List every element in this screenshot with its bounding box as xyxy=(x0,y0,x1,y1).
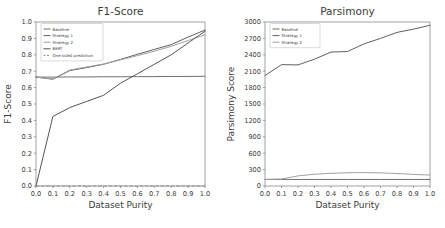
x-tick-label: 0.0 xyxy=(31,190,42,198)
x-tick-label: 0.6 xyxy=(132,190,143,198)
y-tick-label: 2700 xyxy=(244,35,261,43)
x-tick-label: 0.0 xyxy=(259,190,270,198)
y-tick-label: 0.2 xyxy=(22,150,33,158)
y-tick-label: 0.3 xyxy=(22,133,33,141)
panel-f1-score: F1-Score0.00.10.20.30.40.50.60.70.80.91.… xyxy=(0,0,223,228)
y-axis-label: F1-Score xyxy=(3,84,13,124)
y-tick-label: 0.1 xyxy=(22,166,33,174)
legend-label-0: Baseline xyxy=(53,27,70,32)
x-tick-label: 0.9 xyxy=(408,190,419,198)
y-tick-label: 0.7 xyxy=(22,68,33,76)
x-tick-label: 0.2 xyxy=(65,190,76,198)
y-tick-label: 0 xyxy=(256,182,260,190)
legend-label-1: Strategy 1 xyxy=(281,33,302,38)
x-tick-label: 0.1 xyxy=(48,190,59,198)
y-tick-label: 0.6 xyxy=(22,84,33,92)
figure-container: F1-Score0.00.10.20.30.40.50.60.70.80.91.… xyxy=(0,0,445,228)
y-tick-label: 1200 xyxy=(244,117,261,125)
legend-label-3: BERT xyxy=(53,46,64,51)
y-tick-label: 0.5 xyxy=(22,100,33,108)
x-tick-label: 0.5 xyxy=(115,190,126,198)
y-tick-label: 900 xyxy=(248,133,261,141)
panel-parsimony: Parsimony0.00.10.20.30.40.50.60.70.80.91… xyxy=(223,0,445,228)
legend-label-2: Strategy 2 xyxy=(281,40,302,45)
f1-score-chart: F1-Score0.00.10.20.30.40.50.60.70.80.91.… xyxy=(0,0,223,228)
chart-title: Parsimony xyxy=(320,5,375,17)
y-tick-label: 0.4 xyxy=(22,117,33,125)
x-tick-label: 0.5 xyxy=(342,190,353,198)
y-axis-label: Parsimony Score xyxy=(226,66,236,141)
legend-label-2: Strategy 2 xyxy=(53,40,74,45)
y-tick-label: 0.0 xyxy=(22,182,33,190)
y-tick-label: 2100 xyxy=(244,68,261,76)
series-line-2 xyxy=(265,173,430,180)
x-tick-label: 0.2 xyxy=(292,190,303,198)
y-tick-label: 0.9 xyxy=(22,35,33,43)
y-tick-label: 1500 xyxy=(244,100,261,108)
y-tick-label: 3000 xyxy=(244,18,261,26)
x-tick-label: 0.8 xyxy=(391,190,402,198)
x-tick-label: 1.0 xyxy=(424,190,435,198)
x-tick-label: 0.4 xyxy=(325,190,336,198)
y-tick-label: 2400 xyxy=(244,51,261,59)
chart-title: F1-Score xyxy=(98,5,144,17)
x-tick-label: 0.3 xyxy=(309,190,320,198)
series-line-0 xyxy=(36,76,205,77)
y-tick-label: 1800 xyxy=(244,84,261,92)
legend-label-1: Strategy 1 xyxy=(53,33,74,38)
x-tick-label: 0.1 xyxy=(276,190,287,198)
x-tick-label: 0.8 xyxy=(166,190,177,198)
x-tick-label: 0.9 xyxy=(183,190,194,198)
legend-label-4: One-sided prediction xyxy=(53,53,94,58)
x-tick-label: 0.3 xyxy=(81,190,92,198)
x-tick-label: 0.7 xyxy=(375,190,386,198)
y-tick-label: 600 xyxy=(248,150,261,158)
parsimony-chart: Parsimony0.00.10.20.30.40.50.60.70.80.91… xyxy=(223,0,445,228)
y-tick-label: 0.8 xyxy=(22,51,33,59)
legend-label-0: Baseline xyxy=(281,27,298,32)
x-axis-label: Dataset Purity xyxy=(315,200,380,210)
x-tick-label: 0.7 xyxy=(149,190,160,198)
y-tick-label: 1.0 xyxy=(22,18,33,26)
y-tick-label: 300 xyxy=(248,166,261,174)
x-tick-label: 0.4 xyxy=(98,190,109,198)
x-axis-label: Dataset Purity xyxy=(88,200,153,210)
x-tick-label: 1.0 xyxy=(200,190,211,198)
x-tick-label: 0.6 xyxy=(358,190,369,198)
